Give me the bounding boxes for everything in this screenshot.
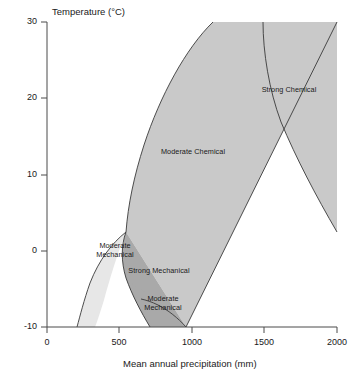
region-label-strong-mechanical: Strong Mechanical bbox=[116, 266, 202, 275]
region-label-line2: Mechanical bbox=[128, 303, 198, 312]
region-label-moderate-mechanical-lower: Moderate Mechanical bbox=[128, 294, 198, 313]
y-axis-title: Temperature (°C) bbox=[52, 6, 125, 17]
region-label-moderate-chemical: Moderate Chemical bbox=[148, 147, 238, 156]
x-tick-label-0: 0 bbox=[27, 337, 67, 347]
y-tick-label-0: 0 bbox=[8, 245, 37, 255]
x-tick-label-2000: 2000 bbox=[317, 337, 357, 347]
y-tick-label-20: 20 bbox=[8, 92, 37, 102]
region-label-line1: Moderate bbox=[128, 294, 198, 303]
y-tick-label-10: 10 bbox=[8, 169, 37, 179]
y-tick-label-30: 30 bbox=[8, 16, 37, 26]
plot-area bbox=[0, 0, 361, 380]
region-label-line1: Strong Chemical bbox=[249, 85, 329, 94]
region-label-line2: Mechanical bbox=[80, 250, 150, 259]
weathering-regime-chart: Temperature (°C) Mean annual precipitati… bbox=[0, 0, 361, 380]
y-tick-label-minus10: -10 bbox=[8, 321, 37, 331]
region-label-strong-chemical: Strong Chemical bbox=[249, 85, 329, 94]
region-label-line1: Moderate Chemical bbox=[148, 147, 238, 156]
region-label-moderate-mechanical-upper: Moderate Mechanical bbox=[80, 241, 150, 260]
x-axis-title: Mean annual precipitation (mm) bbox=[123, 358, 257, 369]
x-tick-label-1500: 1500 bbox=[244, 337, 284, 347]
x-tick-label-500: 500 bbox=[99, 337, 139, 347]
region-label-line1: Strong Mechanical bbox=[116, 266, 202, 275]
x-tick-label-1000: 1000 bbox=[172, 337, 212, 347]
region-label-line1: Moderate bbox=[80, 241, 150, 250]
